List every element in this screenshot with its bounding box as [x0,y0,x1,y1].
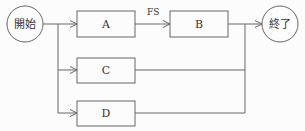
start-label: 開始 [14,17,36,31]
activity-a: A [77,11,135,37]
activity-b-label: B [195,18,203,31]
start-node: 開始 [7,6,43,42]
edge-label-fs: FS [147,7,159,17]
activity-network-diagram: 開始 A FS B C D 終了 [0,0,305,131]
end-label: 終了 [269,17,291,31]
activity-d-label: D [102,107,111,120]
end-node: 終了 [262,6,298,42]
activity-d: D [77,101,135,126]
activity-b: B [170,11,228,37]
activity-c-label: C [102,64,110,77]
activity-a-label: A [101,18,111,31]
activity-c: C [77,58,135,83]
